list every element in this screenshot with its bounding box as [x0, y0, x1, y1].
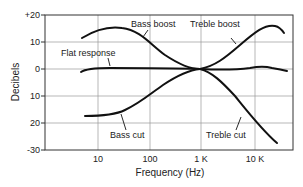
leader-treble-cut	[236, 117, 241, 130]
y-tick-neg30: -30	[27, 145, 40, 155]
leader-bass-cut	[121, 114, 126, 130]
y-axis-label: Decibels	[10, 63, 21, 101]
label-flat-response: Flat response	[61, 48, 116, 58]
label-bass-cut: Bass cut	[110, 130, 145, 140]
label-treble-boost: Treble boost	[190, 19, 240, 29]
leader-flat-response	[108, 58, 110, 66]
y-tick-0: 0	[35, 64, 40, 74]
bass-cut-curve	[85, 69, 200, 116]
treble-boost-curve	[200, 26, 284, 69]
x-tick-1k: 1 K	[194, 154, 208, 164]
leader-bass-boost	[143, 30, 148, 37]
label-bass-boost: Bass boost	[131, 19, 176, 29]
y-tick-10: 10	[30, 37, 40, 47]
leader-treble-boost	[231, 38, 236, 44]
y-tick-20: +20	[25, 10, 40, 20]
y-tick-neg10: 10	[30, 91, 40, 101]
frequency-response-chart: +20 10 0 10 20 -30 Decibels 10 100 1 K 1…	[0, 0, 303, 187]
grid	[45, 15, 293, 150]
x-tick-10: 10	[93, 154, 103, 164]
x-tick-10k: 10 K	[246, 154, 265, 164]
x-axis-label: Frequency (Hz)	[136, 167, 205, 178]
y-tick-neg20: 20	[30, 118, 40, 128]
x-tick-100: 100	[142, 154, 157, 164]
plot-frame	[45, 15, 293, 150]
label-treble-cut: Treble cut	[206, 130, 246, 140]
